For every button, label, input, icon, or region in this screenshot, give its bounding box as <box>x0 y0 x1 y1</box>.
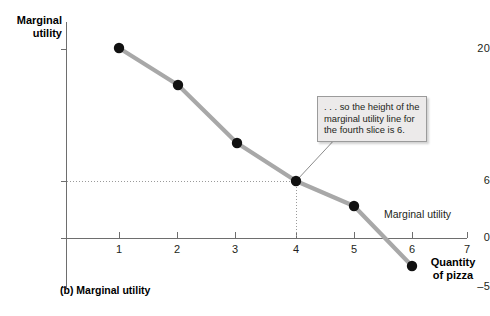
data-point-2 <box>173 80 183 90</box>
marginal-utility-line <box>119 48 412 266</box>
callout-line-1: . . . so the height of the <box>324 101 421 113</box>
marginal-utility-chart: Marginal utility 20 6 0 –5 1 2 3 4 5 6 7… <box>0 0 490 316</box>
callout-line-2: marginal utility line for <box>324 113 421 125</box>
callout-leader-line <box>297 137 337 180</box>
data-point-3 <box>232 138 242 148</box>
data-point-1 <box>114 43 124 53</box>
plot-area <box>0 0 490 316</box>
data-point-4 <box>291 176 301 186</box>
figure-caption: (b) Marginal utility <box>60 284 150 296</box>
data-point-6 <box>407 261 417 271</box>
series-label-marginal-utility: Marginal utility <box>384 208 451 220</box>
callout-line-3: the fourth slice is 6. <box>324 124 421 136</box>
callout-annotation: . . . so the height of the marginal util… <box>317 96 427 142</box>
data-point-5 <box>349 201 359 211</box>
